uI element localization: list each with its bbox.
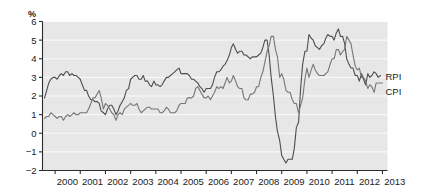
- y-tick-label: 0: [31, 128, 36, 139]
- x-tick-label: 2011: [334, 176, 354, 187]
- y-tick-label: 4: [31, 53, 36, 64]
- x-tick-label: 2012: [359, 176, 380, 187]
- x-tick-label: 2002: [107, 176, 128, 187]
- x-tick-label: 2003: [132, 176, 153, 187]
- x-tick-label: 2005: [183, 176, 204, 187]
- y-axis-tick-labels: 6543210−1−2: [26, 16, 37, 176]
- chart-canvas: % 6543210−1−2 20002001200220032004200520…: [0, 0, 429, 196]
- x-tick-label: 2009: [283, 176, 304, 187]
- x-tick-label: 2006: [208, 176, 229, 187]
- x-tick-label: 2008: [258, 176, 279, 187]
- y-tick-label: 6: [31, 16, 36, 27]
- y-tick-label: 3: [31, 72, 36, 83]
- x-tick-label: 2010: [309, 176, 330, 187]
- x-tick-label: 2004: [158, 176, 179, 187]
- series-label-rpi: RPI: [385, 71, 401, 82]
- y-tick-label: −1: [26, 146, 37, 157]
- y-tick-label: −2: [26, 165, 37, 176]
- x-tick-label: 2001: [82, 176, 103, 187]
- y-tick-label: 2: [31, 90, 36, 101]
- y-tick-label: 1: [31, 109, 36, 120]
- y-tick-label: 5: [31, 35, 36, 46]
- series-label-cpi: CPI: [385, 86, 401, 97]
- x-tick-label: 2013: [384, 176, 405, 187]
- x-axis-tick-labels: 2000200120022003200420052006200720082009…: [57, 176, 406, 187]
- inflation-line-chart: % 6543210−1−2 20002001200220032004200520…: [0, 0, 429, 196]
- x-tick-label: 2007: [233, 176, 254, 187]
- series-labels: RPICPI: [385, 71, 401, 97]
- x-tick-label: 2000: [57, 176, 78, 187]
